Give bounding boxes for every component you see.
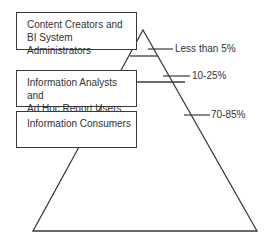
tier-2-line-1: Information Analysts and [27, 76, 136, 102]
tier-box-information-consumers: Information Consumers [16, 111, 137, 148]
tier-1-line-1: Content Creators and [27, 18, 136, 31]
tier-1-line-2: BI System Administrators [27, 31, 136, 57]
share-label-tier-1: Less than 5% [175, 43, 236, 55]
share-label-tier-3: 70-85% [211, 109, 245, 121]
tier-box-content-creators: Content Creators and BI System Administr… [16, 12, 137, 50]
tier-box-information-analysts: Information Analysts and Ad Hoc Report U… [16, 70, 137, 107]
tier-3-line-1: Information Consumers [27, 117, 136, 130]
share-label-tier-2: 10-25% [192, 70, 226, 82]
